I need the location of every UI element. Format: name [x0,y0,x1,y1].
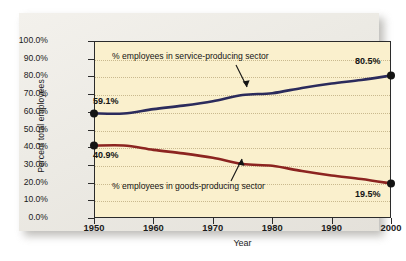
y-tick-label: 0.0% [0,212,48,222]
data-point-marker [387,72,395,80]
y-tick-label: 100.0% [0,35,48,45]
x-tick-mark [153,218,154,224]
y-tick-label: 20.0% [0,177,48,187]
service-annotation-label: % employees in service-producing sector [112,51,269,61]
y-tick-label: 10.0% [0,194,48,204]
data-point-marker [90,109,98,117]
goods-start-value-label: 40.9% [93,150,119,160]
y-tick-label: 70.0% [0,88,48,98]
y-tick-label: 50.0% [0,124,48,134]
data-point-marker [90,142,98,150]
y-tick-label: 60.0% [0,106,48,116]
series-overlay [94,41,391,218]
y-tick-label: 30.0% [0,159,48,169]
x-axis-title: Year [94,238,391,248]
x-tick-label: 2000 [368,222,406,233]
y-tick-label: 40.0% [0,141,48,151]
service-series-line [94,76,391,114]
goods-annotation-label: % employees in goods-producing sector [112,181,265,191]
x-tick-mark [272,218,273,224]
x-tick-mark [213,218,214,224]
x-tick-mark [391,218,392,224]
endpoint-markers [90,72,395,188]
y-tick-label: 90.0% [0,53,48,63]
service-end-value-label: 80.5% [355,56,381,66]
x-tick-mark [332,218,333,224]
goods-end-value-label: 19.5% [355,189,381,199]
x-tick-mark [94,218,95,224]
y-tick-label: 80.0% [0,70,48,80]
chart-card: Percent total employees Year 0.0%10.0%20… [19,13,379,231]
service-start-value-label: 59.1% [93,96,119,106]
data-point-marker [387,179,395,187]
